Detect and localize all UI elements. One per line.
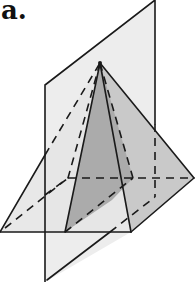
pyramid-plane-diagram bbox=[0, 0, 195, 282]
apex-point bbox=[98, 61, 102, 65]
plane-lower-part bbox=[45, 232, 131, 282]
